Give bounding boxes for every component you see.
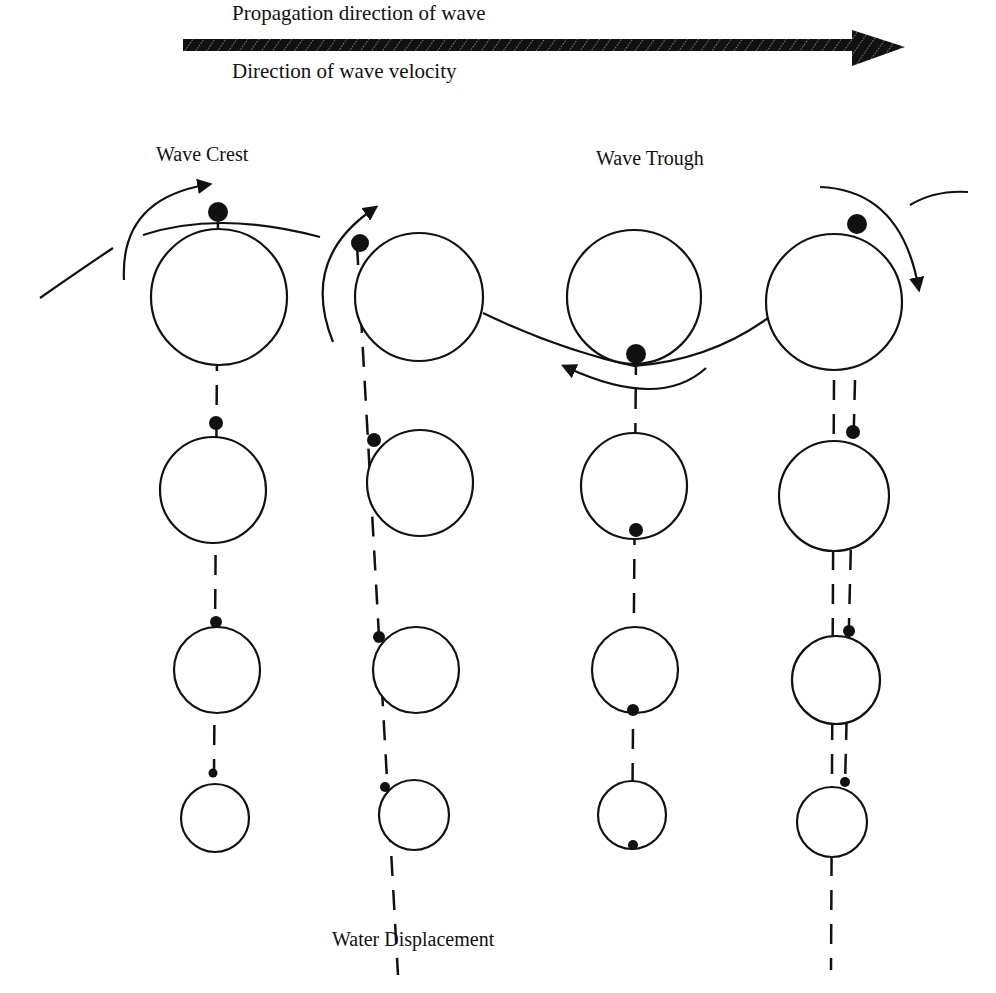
wave-orbital-diagram [0, 0, 996, 993]
velocity-label: Direction of wave velocity [232, 59, 457, 84]
wave-trough-label: Wave Trough [596, 147, 704, 170]
wave-crest-label: Wave Crest [156, 143, 248, 166]
propagation-label: Propagation direction of wave [232, 1, 486, 26]
displacement-lines [214, 215, 855, 975]
water-displacement-label: Water Displacement [332, 928, 494, 951]
orbit-circles [151, 229, 902, 857]
